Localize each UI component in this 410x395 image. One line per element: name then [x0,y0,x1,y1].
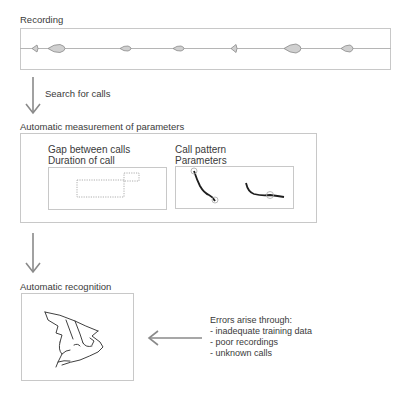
error-item: - inadequate training data [210,326,312,337]
left-arrow-icon [0,0,410,395]
error-item: - poor recordings [210,337,312,348]
errors-list: Errors arise through: - inadequate train… [210,315,312,359]
error-item: - unknown calls [210,348,312,359]
errors-heading: Errors arise through: [210,315,312,326]
